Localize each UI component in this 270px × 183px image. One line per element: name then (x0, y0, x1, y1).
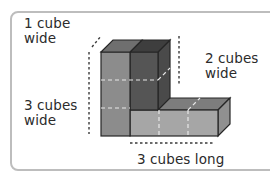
bottom-row-front-face (130, 110, 218, 136)
depth-guide-topleft (92, 36, 101, 47)
left-column-front-face (101, 52, 130, 136)
cube-figure (0, 0, 270, 183)
dark-column-front-face (130, 52, 158, 110)
